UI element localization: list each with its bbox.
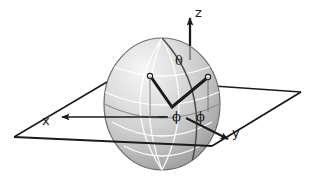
y-axis-label: y	[232, 126, 240, 139]
z-axis-label: z	[195, 6, 202, 19]
azimuth-angle-label: ϕ	[196, 110, 205, 123]
spherical-coordinate-diagram	[0, 0, 315, 180]
sphere	[104, 38, 220, 170]
x-axis-label: x	[42, 114, 50, 127]
figure-canvas: z x y θ − ϕ ϕ	[0, 0, 315, 180]
negative-azimuth-label: − ϕ	[157, 110, 181, 123]
polar-angle-label: θ	[175, 54, 183, 67]
